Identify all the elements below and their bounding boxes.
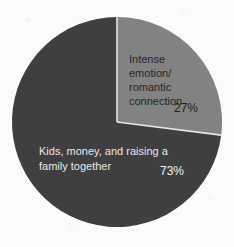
slice-label-intense-emotion-line3: romantic xyxy=(129,81,172,93)
pie-chart-svg: Intense emotion/ romantic connection 27%… xyxy=(0,0,234,247)
pie-chart-figure: Intense emotion/ romantic connection 27%… xyxy=(0,0,234,247)
slice-value-73-percent: 73% xyxy=(160,164,184,178)
slice-label-intense-emotion-line1: Intense xyxy=(129,53,165,65)
slice-label-kids-money-line2: family together xyxy=(39,160,111,172)
slice-label-kids-money-line1: Kids, money, and raising a xyxy=(39,145,169,157)
slice-value-27-percent: 27% xyxy=(174,101,198,115)
slice-label-intense-emotion-line2: emotion/ xyxy=(129,67,172,79)
